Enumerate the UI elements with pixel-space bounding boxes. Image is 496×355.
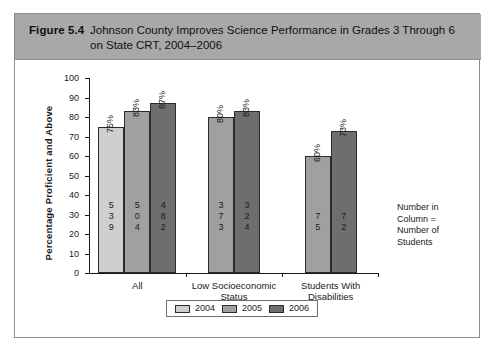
category-label-line: Low Socioeconomic	[186, 280, 283, 291]
y-axis-tick: 90	[85, 98, 89, 99]
y-axis-tick-label: 50	[69, 172, 79, 181]
y-axis-tick-label: 10	[69, 250, 79, 259]
bar-count-digit: 7	[209, 211, 233, 222]
bar-value-label: 83%	[241, 99, 251, 117]
bar-count-digit: 8	[151, 211, 175, 222]
chart-axes: 0102030405060708090100 53975%50483%48287…	[89, 78, 379, 274]
note-line-4: Students	[397, 237, 475, 249]
y-axis-tick-label: 20	[69, 230, 79, 239]
bar-count-digit: 3	[235, 200, 259, 211]
bar-count-digit: 5	[306, 222, 330, 233]
y-axis-title: Percentage Proficient and Above	[43, 90, 55, 276]
bar-2005-low-socioeconomic-status: 373	[208, 117, 234, 273]
x-axis-line	[89, 273, 379, 274]
legend-swatch-2006	[269, 305, 284, 313]
y-axis-tick-label: 70	[69, 133, 79, 142]
bar-2005-all: 504	[124, 111, 150, 273]
y-axis-tick: 40	[85, 195, 89, 196]
legend-item-2006: 2006	[269, 304, 309, 313]
y-axis-tick: 20	[85, 234, 89, 235]
x-axis-separator	[282, 273, 283, 277]
bar-value-label: 80%	[215, 105, 225, 123]
note-line-2: Column =	[397, 214, 475, 226]
bar-value-label: 60%	[312, 144, 322, 162]
figure-container: Figure 5.4 Johnson County Improves Scien…	[14, 13, 480, 338]
bar-count-digit: 3	[99, 211, 123, 222]
category-label: All	[89, 280, 186, 291]
category-label-line: Students With	[282, 280, 379, 291]
bar-2004-all: 539	[98, 127, 124, 273]
y-axis-tick: 60	[85, 156, 89, 157]
y-axis-line	[89, 78, 90, 274]
bar-value-label: 87%	[157, 91, 167, 109]
bar-count-digit: 5	[99, 200, 123, 211]
legend-item-2005: 2005	[222, 304, 262, 313]
y-axis-tick: 0	[85, 273, 89, 274]
legend-label-2004: 2004	[195, 304, 215, 313]
x-axis-separator	[186, 273, 187, 277]
y-axis-tick: 50	[85, 176, 89, 177]
note-line-3: Number of	[397, 225, 475, 237]
bar-count-digit: 2	[332, 222, 356, 233]
y-axis-tick-label: 60	[69, 152, 79, 161]
note-line-1: Number in	[397, 202, 475, 214]
y-axis-tick: 70	[85, 137, 89, 138]
figure-number: Figure 5.4	[29, 24, 84, 36]
figure-title: Johnson County Improves Science Performa…	[90, 23, 465, 53]
category-label: Low SocioeconomicStatus	[186, 280, 283, 302]
y-axis-tick: 100	[85, 78, 89, 79]
bar-count-digit: 5	[125, 200, 149, 211]
bar-value-label: 75%	[105, 115, 115, 133]
bar-count-digit: 7	[306, 211, 330, 222]
bar-count-digit: 3	[209, 200, 233, 211]
bar-count-digit: 2	[151, 222, 175, 233]
legend-label-2005: 2005	[242, 304, 262, 313]
legend-swatch-2005	[222, 305, 237, 313]
bar-count-digit: 9	[99, 222, 123, 233]
bar-2005-students-with-disabilities: 75	[305, 156, 331, 273]
bar-count-digit: 4	[125, 222, 149, 233]
bar-count-digit: 4	[151, 200, 175, 211]
bar-2006-low-socioeconomic-status: 324	[234, 111, 260, 273]
bar-count-digit: 7	[332, 211, 356, 222]
bar-count-digit: 3	[209, 222, 233, 233]
bar-2006-all: 482	[150, 103, 176, 273]
y-axis-tick-label: 90	[69, 94, 79, 103]
bar-count-digit: 4	[235, 222, 259, 233]
bar-2006-students-with-disabilities: 72	[331, 131, 357, 273]
bar-value-label: 73%	[338, 119, 348, 137]
category-label: Students WithDisabilities	[282, 280, 379, 302]
chart-legend: 200420052006	[166, 300, 318, 317]
bar-count-digit: 0	[125, 211, 149, 222]
chart-plot-region: Percentage Proficient and Above 01020304…	[15, 60, 481, 338]
y-axis-tick: 10	[85, 254, 89, 255]
y-axis-tick-label: 0	[74, 269, 79, 278]
category-label-line: All	[89, 280, 186, 291]
bar-count-digit: 2	[235, 211, 259, 222]
y-axis-tick-label: 30	[69, 211, 79, 220]
x-axis-end-tick	[378, 273, 379, 277]
y-axis-tick-label: 40	[69, 191, 79, 200]
figure-header-band: Figure 5.4 Johnson County Improves Scien…	[15, 14, 481, 60]
bar-value-label: 83%	[131, 99, 141, 117]
y-axis-tick: 80	[85, 117, 89, 118]
y-axis-tick-label: 100	[64, 74, 79, 83]
y-axis-tick-label: 80	[69, 113, 79, 122]
y-axis-tick: 30	[85, 215, 89, 216]
legend-item-2004: 2004	[175, 304, 215, 313]
legend-swatch-2004	[175, 305, 190, 313]
students-note: Number in Column = Number of Students	[397, 202, 475, 248]
legend-label-2006: 2006	[289, 304, 309, 313]
